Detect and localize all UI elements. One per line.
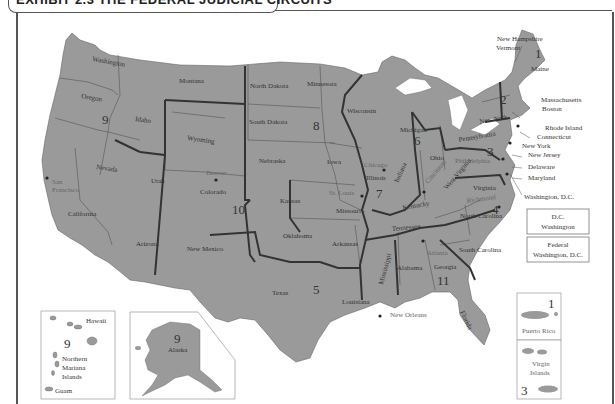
circuit-3-number: 3 xyxy=(487,144,494,159)
new-york-city-dot xyxy=(508,141,511,144)
svg-text:Federal: Federal xyxy=(548,241,569,249)
label-georgia: Georgia xyxy=(434,263,457,271)
label-virginia: Virginia xyxy=(473,184,497,192)
circuit-9-number: 9 xyxy=(102,112,109,127)
label-st-louis: St. Louis xyxy=(329,189,355,197)
denver-dot xyxy=(214,178,217,181)
label-iowa: Iowa xyxy=(327,158,342,166)
label-new-mexico: New Mexico xyxy=(187,245,224,253)
callout-connecticut: Connecticut xyxy=(537,133,571,141)
pacific-inset: Hawaii 9 Northern Mariana Islands Guam xyxy=(41,311,115,399)
circuit-4-number: 4 xyxy=(492,202,499,217)
label-virgin: Virgin xyxy=(532,360,550,368)
label-california: California xyxy=(68,210,97,218)
label-colorado: Colorado xyxy=(200,188,227,196)
federal-circuit-box: Federal Washington, D.C. xyxy=(527,237,589,262)
pr-circuit-number: 1 xyxy=(548,296,555,311)
alaska-circuit-number: 9 xyxy=(174,331,181,346)
circuit-6-number: 6 xyxy=(414,133,421,148)
callout-new-york-city: New York xyxy=(522,142,551,150)
pacific-circuit-number: 9 xyxy=(64,336,71,351)
label-kansas: Kansas xyxy=(280,197,300,205)
label-san-francisco-2: Francisco xyxy=(52,186,80,194)
label-chicago: Chicago xyxy=(364,161,388,169)
label-nebraska: Nebraska xyxy=(259,157,286,165)
label-nmi-2: Mariana xyxy=(62,364,86,372)
callout-vermont: Vermont xyxy=(496,44,520,52)
dc-circuit-box: D.C. Washington xyxy=(527,209,589,234)
philadelphia-dot xyxy=(501,157,504,160)
label-wisconsin: Wisconsin xyxy=(347,107,377,115)
label-arizona: Arizona xyxy=(136,240,159,248)
callout-rhode-island: Rhode Island xyxy=(545,124,583,132)
pr-vi-inset: 1 Puerto Rico Virgin Islands 3 xyxy=(517,293,561,399)
cincinnati-dot xyxy=(422,190,425,193)
label-illinois: Illinois xyxy=(366,174,386,182)
washington-dc-dot xyxy=(505,172,508,175)
callout-new-hampshire: New Hampshire xyxy=(497,35,543,43)
callout-massachusetts: Massachusetts xyxy=(541,96,582,104)
label-louisiana: Louisiana xyxy=(342,298,370,306)
label-puerto-rico: Puerto Rico xyxy=(522,327,556,335)
label-utah: Utah xyxy=(151,177,165,185)
st-louis-dot xyxy=(360,194,363,197)
label-nmi-1: Northern xyxy=(62,355,88,363)
circuit-11-number: 11 xyxy=(437,273,450,288)
label-missouri: Missouri xyxy=(336,207,361,215)
circuit-7-number: 7 xyxy=(376,186,383,201)
label-atlanta: Atlanta xyxy=(427,249,448,257)
label-san-francisco-1: San xyxy=(52,178,63,186)
label-south-dakota: South Dakota xyxy=(249,118,288,126)
label-nmi-3: Islands xyxy=(62,373,82,381)
atlanta-dot xyxy=(421,239,424,242)
label-montana: Montana xyxy=(179,77,205,85)
svg-text:D.C.: D.C. xyxy=(551,213,564,221)
circuit-5-number: 5 xyxy=(313,282,320,297)
callout-delaware: Delaware xyxy=(528,163,555,171)
label-new-orleans: New Orleans xyxy=(390,311,427,319)
circuit-10-number: 10 xyxy=(232,202,245,217)
callout-washington-dc: Washington, D.C. xyxy=(524,193,574,201)
circuit-2-number: 2 xyxy=(500,92,507,107)
san-francisco-dot xyxy=(45,176,48,179)
label-minnesota: Minnesota xyxy=(307,80,337,88)
svg-text:Washington: Washington xyxy=(541,223,575,231)
label-denver: Denver xyxy=(206,169,227,177)
svg-text:Washington, D.C.: Washington, D.C. xyxy=(533,251,583,259)
new-orleans-dot xyxy=(378,314,381,317)
callout-boston: Boston xyxy=(542,105,562,113)
label-arkansas: Arkansas xyxy=(332,240,358,248)
boston-dot xyxy=(516,124,519,127)
vi-circuit-number: 3 xyxy=(521,383,528,398)
label-alabama: Alabama xyxy=(397,264,423,272)
label-south-carolina-1: South Carolina xyxy=(459,246,502,254)
label-maine: Maine xyxy=(531,65,549,73)
callout-maryland: Maryland xyxy=(528,174,556,182)
circuit-1-number: 1 xyxy=(535,46,542,61)
callout-new-jersey: New Jersey xyxy=(528,151,561,159)
alaska-inset: 9 Alaska xyxy=(130,312,235,399)
circuit-8-number: 8 xyxy=(313,118,320,133)
label-hawaii: Hawaii xyxy=(86,317,106,325)
label-oklahoma: Oklahoma xyxy=(283,232,313,240)
label-islands: Islands xyxy=(530,369,550,377)
label-philadelphia: Philadelphia xyxy=(455,157,491,165)
label-north-dakota: North Dakota xyxy=(250,82,289,90)
label-texas: Texas xyxy=(272,289,289,297)
label-alaska: Alaska xyxy=(168,346,188,354)
label-guam: Guam xyxy=(55,387,73,395)
